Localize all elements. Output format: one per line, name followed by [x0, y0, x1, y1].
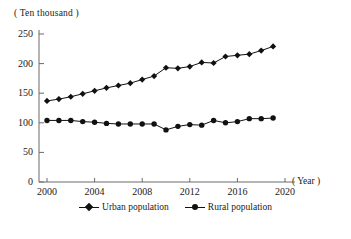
data-point-marker [163, 127, 168, 132]
data-point-marker [223, 120, 228, 125]
y-axis-tick-label: 250 [7, 28, 33, 39]
data-point-marker [199, 59, 205, 65]
data-point-marker [44, 98, 50, 104]
data-point-marker [104, 121, 109, 126]
data-point-marker [235, 119, 240, 124]
data-point-marker [246, 51, 252, 57]
data-point-marker [44, 118, 49, 123]
population-line-chart: ( Ten thousand ) ( Year ) 05010015020025… [0, 0, 351, 239]
data-point-marker [270, 115, 275, 120]
data-point-marker [116, 121, 121, 126]
legend-label-urban: Urban population [102, 202, 169, 212]
legend-line-urban-icon [79, 207, 99, 208]
legend-item-rural: Rural population [185, 202, 272, 212]
data-point-marker [163, 65, 169, 71]
data-point-marker [80, 119, 85, 124]
axis-lines [39, 30, 295, 182]
x-axis-tick-label: 2016 [220, 186, 254, 197]
data-point-marker [222, 53, 228, 59]
data-point-marker [68, 118, 73, 123]
data-point-marker [247, 116, 252, 121]
data-point-marker [211, 118, 216, 123]
legend-item-urban: Urban population [79, 202, 169, 212]
x-axis-tick-label: 2020 [268, 186, 302, 197]
y-axis-tick-label: 50 [7, 146, 33, 157]
circle-marker-icon [192, 204, 198, 210]
legend-label-rural: Rural population [208, 202, 272, 212]
legend-line-rural-icon [185, 207, 205, 208]
data-point-marker [127, 80, 133, 86]
x-axis-tick-label: 2012 [173, 186, 207, 197]
diamond-marker-icon [85, 202, 93, 210]
y-axis-tick-label: 200 [7, 58, 33, 69]
x-axis-tick-label: 2008 [125, 186, 159, 197]
data-point-marker [139, 76, 145, 82]
data-point-marker [128, 121, 133, 126]
chart-legend: Urban population Rural population [0, 202, 351, 212]
data-point-marker [175, 65, 181, 71]
data-point-marker [151, 73, 157, 79]
y-axis-tick-label: 100 [7, 117, 33, 128]
data-point-marker [80, 91, 86, 97]
y-axis-tick-label: 150 [7, 87, 33, 98]
data-point-marker [103, 85, 109, 91]
x-axis-tick-label: 2000 [30, 186, 64, 197]
data-point-marker [259, 116, 264, 121]
data-point-marker [187, 122, 192, 127]
data-point-marker [92, 88, 98, 94]
data-point-marker [151, 121, 156, 126]
data-point-marker [258, 47, 264, 53]
data-point-marker [199, 122, 204, 127]
data-point-marker [211, 60, 217, 66]
data-point-marker [68, 94, 74, 100]
data-point-marker [175, 124, 180, 129]
data-point-marker [234, 52, 240, 58]
data-point-marker [92, 120, 97, 125]
x-axis-tick-label: 2004 [78, 186, 112, 197]
data-point-marker [115, 82, 121, 88]
data-point-marker [270, 43, 276, 49]
data-point-marker [56, 118, 61, 123]
data-point-marker [56, 96, 62, 102]
data-point-marker [140, 121, 145, 126]
data-point-marker [187, 63, 193, 69]
